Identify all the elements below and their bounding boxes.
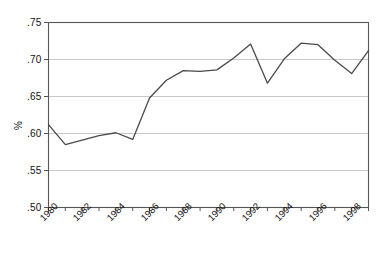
y-axis-ticks [44, 23, 49, 208]
y-axis-title: % [14, 121, 24, 130]
chart-figure: .50.55.60.65.70.75 198019821984198619881… [0, 0, 391, 261]
plot-frame [49, 23, 369, 208]
line-chart-canvas [0, 0, 391, 261]
gridlines [49, 60, 369, 171]
y-tick-label: .50 [27, 203, 42, 213]
y-tick-label: .55 [27, 166, 42, 176]
y-tick-label: .65 [27, 92, 42, 102]
y-tick-label: .75 [27, 18, 42, 28]
y-tick-label: .70 [27, 55, 42, 65]
data-line-series-1 [49, 43, 369, 144]
y-tick-label: .60 [27, 129, 42, 139]
cropped-caption [0, 254, 391, 261]
